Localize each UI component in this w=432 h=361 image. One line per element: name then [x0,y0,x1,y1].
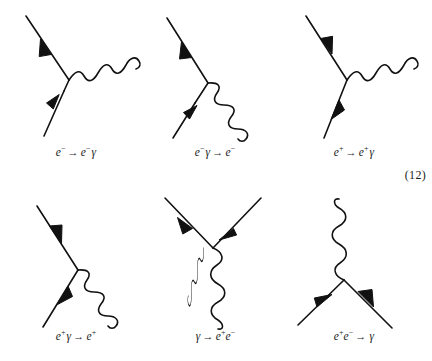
feynman-diagram-3 [284,6,424,146]
fermion-line-right-5 [213,198,261,248]
photon-wavy-line-2 [208,83,248,141]
diagram-label-5: gamma -> e+ e- γ→e+e− [145,326,285,343]
arrowhead-icon [321,36,333,54]
feynman-diagram-4 [6,190,146,330]
fermion-line-outgoing-1 [26,16,69,80]
label-rendered-1: e−→e−γ [56,146,97,158]
fermion-line-incoming-4 [37,206,78,270]
diagram-cell-6: e+ e- -> gamma e+e−→γ [284,190,424,360]
label-rendered-3: e+→e+γ [334,146,375,158]
fermion-line-outgoing-2 [167,18,208,83]
fermion-line-left-6 [298,280,344,325]
fermion-line-outgoing-4 [43,270,78,327]
label-rendered-2: e−γ→e− [195,146,236,158]
photon-wavy-line-1 [69,58,140,81]
feynman-diagram-2 [145,6,285,146]
arrowhead-icon [50,225,63,244]
photon-wavy-line-5b [211,248,225,329]
diagram-label-4: e+ gamma -> e+ e+γ→e+ [6,326,146,343]
label-rendered-5: γ→e+e− [195,330,236,342]
equation-number: (12) [405,168,426,183]
diagram-label-1: e- -> e- gamma e−→e−γ [6,142,146,159]
arrowhead-icon [39,39,51,57]
label-rendered-4: e+γ→e+ [56,330,97,342]
fermion-line-incoming-3 [306,16,347,80]
diagram-label-2: e- gamma -> e- e−γ→e− [145,142,285,159]
fermion-line-incoming-1 [44,80,69,136]
fermion-line-outgoing-3 [324,80,347,138]
photon-wavy-line-5 [188,248,204,306]
arrowhead-icon [58,286,73,305]
label-rendered-6: e+e−→γ [334,330,375,342]
arrowhead-icon [314,295,332,308]
diagram-cell-4: e+ gamma -> e+ e+γ→e+ [6,190,146,360]
arrowhead-icon [219,229,237,241]
diagram-label-6: e+ e- -> gamma e+e−→γ [284,326,424,343]
feynman-diagram-1 [6,6,146,146]
diagram-cell-5: gamma -> e+ e- γ→e+e− [145,190,285,360]
diagram-cell-1: e- -> e- gamma e−→e−γ [6,6,146,176]
arrowhead-icon [180,42,192,60]
photon-wavy-line-3 [347,58,418,81]
diagram-cell-2: e- gamma -> e- e−γ→e− [145,6,285,176]
arrowhead-icon [358,290,374,308]
feynman-diagram-5 [145,190,285,330]
fermion-line-left-5 [165,198,213,248]
diagram-label-3: e+ -> e+ gamma e+→e+γ [284,142,424,159]
feynman-diagram-6 [284,190,424,330]
arrowhead-icon [331,100,345,120]
feynman-diagram-figure: e- -> e- gamma e−→e−γ e- gamma -> e- e−γ… [0,0,432,361]
photon-wavy-line-6 [332,199,346,280]
fermion-line-incoming-2 [173,83,208,138]
diagram-cell-3: e+ -> e+ gamma e+→e+γ [284,6,424,176]
photon-wavy-line-4 [78,270,118,328]
fermion-line-right-6 [344,280,392,328]
